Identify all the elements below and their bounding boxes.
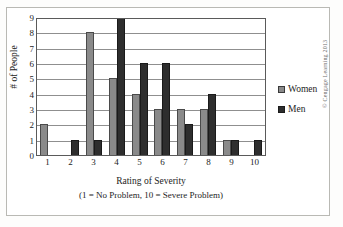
bar-men-8 [208, 94, 216, 155]
bar-women-5 [132, 94, 140, 155]
x-tick-label: 4 [105, 158, 128, 170]
x-tick-label: 6 [151, 158, 174, 170]
legend-item-men: Men [278, 104, 328, 114]
y-tick-label: 8 [18, 29, 34, 38]
x-axis-tick-labels: 12345678910 [36, 158, 266, 170]
bar-group [197, 19, 220, 155]
x-tick-label: 7 [174, 158, 197, 170]
figure-container: # of People 0123456789 12345678910 Ratin… [0, 0, 343, 227]
bar-group [105, 19, 128, 155]
bar-men-2 [71, 140, 79, 155]
x-tick-label: 10 [243, 158, 266, 170]
bar-group [242, 19, 265, 155]
y-tick-label: 4 [18, 90, 34, 99]
y-tick-label: 0 [18, 152, 34, 161]
bar-women-4 [109, 78, 117, 155]
plot-area [36, 18, 266, 156]
legend-item-women: Women [278, 84, 328, 94]
bar-women-8 [200, 109, 208, 155]
bar-men-7 [185, 124, 193, 155]
y-tick-label: 7 [18, 44, 34, 53]
bar-group [174, 19, 197, 155]
bar-group [60, 19, 83, 155]
chart-legend: Women Men [278, 84, 328, 124]
bar-group [151, 19, 174, 155]
bar-women-9 [223, 140, 231, 155]
bar-women-1 [40, 124, 48, 155]
women-swatch-icon [278, 86, 285, 93]
x-tick-label: 1 [36, 158, 59, 170]
legend-label-men: Men [288, 104, 305, 114]
bar-men-9 [231, 140, 239, 155]
x-axis-subtitle: (1 = No Problem, 10 = Severe Problem) [20, 190, 282, 200]
x-tick-label: 5 [128, 158, 151, 170]
x-tick-label: 9 [220, 158, 243, 170]
bar-women-6 [154, 109, 162, 155]
y-tick-label: 3 [18, 106, 34, 115]
bar-men-3 [94, 140, 102, 155]
bar-group [219, 19, 242, 155]
bar-group [37, 19, 60, 155]
x-tick-label: 8 [197, 158, 220, 170]
bars-layer [37, 19, 265, 155]
x-tick-label: 3 [82, 158, 105, 170]
x-tick-label: 2 [59, 158, 82, 170]
bar-men-5 [140, 63, 148, 155]
bar-men-4 [117, 18, 125, 155]
y-tick-label: 2 [18, 121, 34, 130]
bar-men-6 [162, 63, 170, 155]
y-tick-label: 5 [18, 75, 34, 84]
bar-women-3 [86, 32, 94, 155]
y-tick-label: 6 [18, 60, 34, 69]
y-tick-label: 9 [18, 14, 34, 23]
legend-label-women: Women [288, 84, 317, 94]
y-axis-tick-labels: 0123456789 [18, 18, 34, 156]
bar-group [128, 19, 151, 155]
bar-women-7 [177, 109, 185, 155]
bar-men-10 [254, 140, 262, 155]
men-swatch-icon [278, 106, 285, 113]
bar-group [83, 19, 106, 155]
copyright-credit: © Cengage Learning 2013 [322, 40, 328, 108]
y-tick-label: 1 [18, 136, 34, 145]
x-axis-title: Rating of Severity [36, 176, 266, 186]
